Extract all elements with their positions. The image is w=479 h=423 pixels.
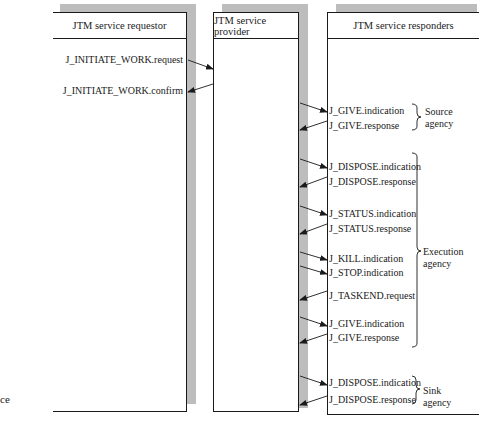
arrow-initiate-confirm (188, 84, 213, 92)
execution-agency-brace (412, 153, 421, 347)
arrow-initiate-request (188, 60, 213, 69)
source-agency-brace (412, 104, 421, 130)
sink-agency-brace (412, 376, 420, 404)
